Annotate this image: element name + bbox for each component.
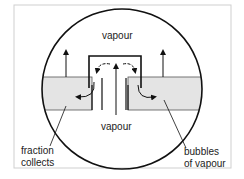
label-bubbles-2: of vapour	[184, 158, 226, 169]
label-fraction-1: fraction	[21, 145, 54, 156]
label-vapour-bottom: vapour	[101, 121, 132, 132]
label-fraction-2: collects	[21, 157, 54, 168]
label-bubbles-1: bubbles	[184, 146, 219, 157]
label-vapour-top: vapour	[102, 30, 133, 41]
